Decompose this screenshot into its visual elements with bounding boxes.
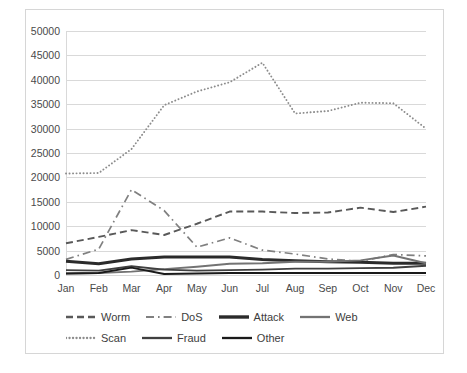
legend-item-scan[interactable]: Scan (66, 332, 126, 344)
series-lines (66, 31, 426, 275)
solid-thick-swatch (222, 333, 252, 343)
legend-label: DoS (181, 311, 202, 323)
y-tick-label: 10000 (2, 221, 60, 231)
legend-item-worm[interactable]: Worm (66, 311, 130, 323)
dotted-swatch (66, 333, 96, 343)
legend-label: Fraud (177, 332, 206, 344)
y-axis-labels: 0500010000150002000025000300003500040000… (0, 31, 60, 275)
legend-label: Scan (101, 332, 126, 344)
series-line-scan (66, 63, 426, 174)
legend-label: Worm (101, 311, 130, 323)
gridline (66, 275, 426, 276)
dashed-swatch (66, 312, 96, 322)
legend-label: Other (257, 332, 285, 344)
y-tick-label: 50000 (2, 26, 60, 36)
y-tick-label: 15000 (2, 197, 60, 207)
y-tick-label: 0 (2, 270, 60, 280)
plot-area (66, 31, 426, 275)
y-tick-label: 30000 (2, 124, 60, 134)
legend-item-web[interactable]: Web (300, 311, 357, 323)
y-tick-label: 25000 (2, 148, 60, 158)
dash-dot-swatch (146, 312, 176, 322)
solid-swatch (142, 333, 172, 343)
legend-item-dos[interactable]: DoS (146, 311, 202, 323)
x-axis-labels: JanFebMarAprMayJunJulAugSepOctNovDec (66, 281, 426, 297)
legend-label: Attack (254, 311, 285, 323)
y-tick-label: 45000 (2, 50, 60, 60)
y-tick-label: 5000 (2, 246, 60, 256)
legend-label: Web (335, 311, 357, 323)
legend-row: WormDoSAttackWeb (66, 306, 416, 327)
y-tick-label: 40000 (2, 75, 60, 85)
y-tick-label: 35000 (2, 99, 60, 109)
legend-item-other[interactable]: Other (222, 332, 285, 344)
legend-item-fraud[interactable]: Fraud (142, 332, 206, 344)
y-tick-label: 20000 (2, 172, 60, 182)
line-chart: 0500010000150002000025000300003500040000… (0, 0, 467, 373)
series-line-dos (66, 190, 426, 262)
chart-legend: WormDoSAttackWebScanFraudOther (66, 306, 416, 348)
x-tick-label: Dec (406, 281, 446, 295)
solid-thick-swatch (219, 312, 249, 322)
solid-swatch (300, 312, 330, 322)
legend-item-attack[interactable]: Attack (219, 311, 285, 323)
legend-row: ScanFraudOther (66, 327, 416, 348)
